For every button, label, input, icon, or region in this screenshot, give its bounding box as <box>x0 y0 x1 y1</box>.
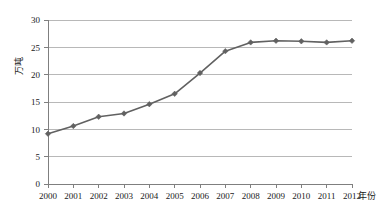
x-tick-label-2009: 2009 <box>267 191 286 201</box>
x-tick-label-2008: 2008 <box>242 191 261 201</box>
y-tick-label-15: 15 <box>31 97 41 107</box>
x-tick-label-2004: 2004 <box>140 191 159 201</box>
x-tick-label-2000: 2000 <box>39 191 58 201</box>
x-tick-label-2005: 2005 <box>166 191 185 201</box>
x-tick-label-2010: 2010 <box>292 191 311 201</box>
y-tick-label-5: 5 <box>36 152 41 162</box>
x-tick-label-2011: 2011 <box>318 191 336 201</box>
x-tick-label-2003: 2003 <box>115 191 134 201</box>
y-axis-title: 万吨 <box>13 57 24 75</box>
y-tick-label-20: 20 <box>31 70 41 80</box>
x-tick-label-2001: 2001 <box>64 191 82 201</box>
y-tick-label-0: 0 <box>36 179 41 189</box>
chart-background <box>0 0 387 219</box>
y-tick-label-30: 30 <box>31 15 41 25</box>
y-tick-label-10: 10 <box>31 125 41 135</box>
x-tick-label-2002: 2002 <box>90 191 108 201</box>
x-axis-title: 年份 <box>358 190 376 201</box>
y-tick-label-25: 25 <box>31 43 41 53</box>
chart-canvas: 051015202530 200020012002200320042005200… <box>0 0 387 219</box>
x-tick-label-2006: 2006 <box>191 191 210 201</box>
x-tick-label-2007: 2007 <box>216 191 235 201</box>
line-chart: 051015202530 200020012002200320042005200… <box>0 0 387 219</box>
